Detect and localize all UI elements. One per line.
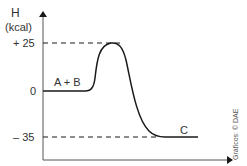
tick-label-minus35: – 35 xyxy=(13,132,34,143)
y-axis-title: H xyxy=(11,7,20,19)
chart-canvas xyxy=(0,0,247,166)
tick-label-zero: 0 xyxy=(30,86,36,97)
enthalpy-curve xyxy=(43,43,198,137)
enthalpy-diagram: H (kcal) + 25 0 – 35 A + B C Gráficos: ©… xyxy=(0,0,247,166)
products-label: C xyxy=(180,125,188,136)
reactants-label: A + B xyxy=(54,77,81,88)
y-axis-unit: (kcal) xyxy=(5,22,32,33)
credit-text: Gráficos: © DAE xyxy=(232,109,239,160)
tick-label-plus25: + 25 xyxy=(13,38,35,49)
